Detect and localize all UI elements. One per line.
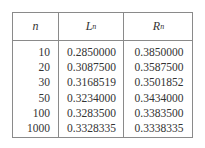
cell-n: 30 — [13, 75, 50, 90]
cell-l: 0.3168519 — [59, 75, 124, 90]
cell-l: 0.3234000 — [59, 91, 124, 106]
cell-n: 100 — [13, 106, 50, 121]
cell-r: 0.3434000 — [124, 91, 194, 106]
column-left-sum: 0.2850000 0.3087500 0.3168519 0.3234000 … — [59, 45, 124, 136]
column-n: 10 20 30 50 100 1000 — [13, 45, 50, 136]
cell-l: 0.2850000 — [59, 45, 124, 60]
cell-l: 0.3087500 — [59, 60, 124, 75]
header-l-label: L — [86, 19, 93, 34]
column-right-sum: 0.3850000 0.3587500 0.3501852 0.3434000 … — [124, 45, 194, 136]
cell-n: 1000 — [13, 121, 50, 136]
cell-n: 10 — [13, 45, 50, 60]
cell-n: 20 — [13, 60, 50, 75]
header-divider — [13, 40, 192, 41]
header-n: n — [13, 13, 58, 40]
cell-r: 0.3338335 — [124, 121, 194, 136]
cell-r: 0.3850000 — [124, 45, 194, 60]
cell-l: 0.3283500 — [59, 106, 124, 121]
header-r-subscript: n — [160, 22, 164, 31]
approximation-table: n Ln Rn 10 20 30 50 100 1000 0.2850000 0… — [12, 12, 193, 138]
header-left-sum: Ln — [59, 13, 123, 40]
cell-r: 0.3501852 — [124, 75, 194, 90]
header-l-subscript: n — [92, 22, 96, 31]
cell-l: 0.3328335 — [59, 121, 124, 136]
cell-r: 0.3383500 — [124, 106, 194, 121]
cell-n: 50 — [13, 91, 50, 106]
header-right-sum: Rn — [124, 13, 193, 40]
cell-r: 0.3587500 — [124, 60, 194, 75]
header-r-label: R — [153, 19, 160, 34]
header-n-label: n — [33, 19, 39, 34]
